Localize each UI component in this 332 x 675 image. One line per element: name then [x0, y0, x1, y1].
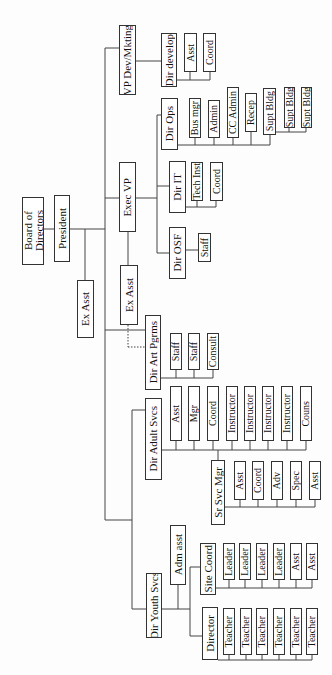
node-director: Director: [202, 607, 218, 660]
node-vp-dev-mkting: VP Dev/Mkting: [119, 25, 136, 95]
node-ex-asst-exec: Ex Asst: [120, 265, 138, 325]
node-exec-vp: Exec VP: [119, 162, 136, 232]
node-site-staff: Leader: [239, 543, 251, 580]
node-sr-svc-mgr: Sr Svc Mgr: [211, 460, 225, 525]
node-teacher: Teacher: [306, 608, 318, 655]
node-dir-youth-svcs: Dir Youth Svcs: [146, 573, 162, 638]
node-site-staff: Leader: [256, 543, 268, 580]
node-ops-staff: Supt Bldg: [301, 87, 312, 128]
node-adult-staff: Instructor: [226, 386, 238, 441]
node-adult-staff: Asst: [170, 386, 182, 441]
node-teacher: Teacher: [240, 608, 252, 655]
node-ops-staff: Bus mgr: [189, 98, 201, 138]
node-it-staff: Tech Inst: [191, 162, 203, 201]
node-adult-staff: Instructor: [281, 386, 293, 441]
node-teacher: Teacher: [290, 608, 302, 655]
node-adult-staff: Instructor: [244, 386, 256, 441]
node-teacher: Teacher: [256, 608, 268, 655]
node-adult-staff: Couns: [300, 386, 312, 441]
node-site-staff: Asst: [290, 543, 302, 580]
node-art-staff: Staff: [170, 333, 182, 370]
node-board-of-directors: Board of Directors: [22, 197, 44, 265]
node-it-staff: Coord: [210, 162, 223, 201]
node-teacher: Teacher: [223, 608, 235, 655]
node-ex-asst-president: Ex Asst: [77, 280, 94, 338]
node-dir-adult-svcs: Dir Adult Svcs: [145, 398, 162, 480]
node-dir-osf: Dir OSF: [169, 227, 186, 279]
node-adm-asst: Adm asst: [170, 525, 186, 585]
node-president: President: [54, 195, 70, 262]
node-ops-staff: CC Admin: [227, 87, 239, 138]
node-adult-staff: Mgr: [188, 386, 200, 441]
node-srsvc-staff: Asst: [234, 461, 246, 500]
node-adult-staff: Coord: [207, 386, 219, 441]
node-site-staff: Leader: [273, 543, 285, 580]
node-art-staff: Staff: [188, 333, 200, 370]
node-dev-asst: Asst: [184, 33, 197, 72]
node-site-staff: Leader: [223, 543, 235, 580]
node-dir-it: Dir IT: [169, 161, 186, 213]
node-art-staff: Consult: [207, 333, 219, 370]
node-site-staff: Asst: [306, 543, 318, 580]
node-dir-develop: Dir develop: [161, 33, 177, 87]
node-srsvc-staff: Asst: [309, 461, 321, 500]
node-dir-art-pgrms: Dir Art Pgrms: [145, 315, 161, 390]
node-srsvc-staff: Adv: [271, 461, 283, 500]
org-chart: Board of Directors President Ex Asst VP …: [0, 0, 332, 675]
node-ops-staff: Supt Bldg: [263, 88, 276, 135]
node-ops-staff: Supt Bldg: [284, 87, 295, 128]
node-osf-staff: Staff: [198, 233, 211, 262]
node-dev-coord: Coord: [203, 33, 216, 72]
node-teacher: Teacher: [273, 608, 285, 655]
node-ops-staff: Admin: [208, 100, 220, 138]
node-srsvc-staff: Spec: [290, 461, 302, 500]
node-ops-staff: Recep: [245, 93, 257, 132]
node-site-coord: Site Coord: [200, 543, 216, 595]
node-dir-ops: Dir Ops: [161, 98, 178, 150]
node-srsvc-staff: Coord: [252, 461, 264, 500]
node-adult-staff: Instructor: [262, 386, 274, 441]
